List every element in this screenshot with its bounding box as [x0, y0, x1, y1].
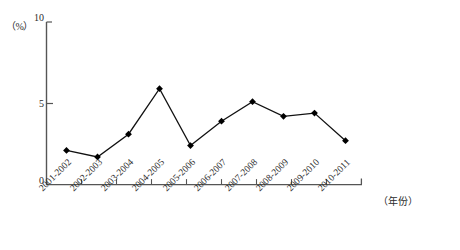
- line-chart: （%） 10 5 0 2001-20022002-20032003-200420…: [0, 0, 460, 250]
- plot-area: [0, 0, 460, 250]
- data-point-marker[interactable]: [280, 113, 287, 120]
- data-series-line: [67, 89, 346, 157]
- data-point-markers: [63, 85, 349, 160]
- x-axis-title: （年份）: [378, 196, 418, 208]
- data-point-marker[interactable]: [63, 147, 70, 154]
- data-point-marker[interactable]: [249, 98, 256, 105]
